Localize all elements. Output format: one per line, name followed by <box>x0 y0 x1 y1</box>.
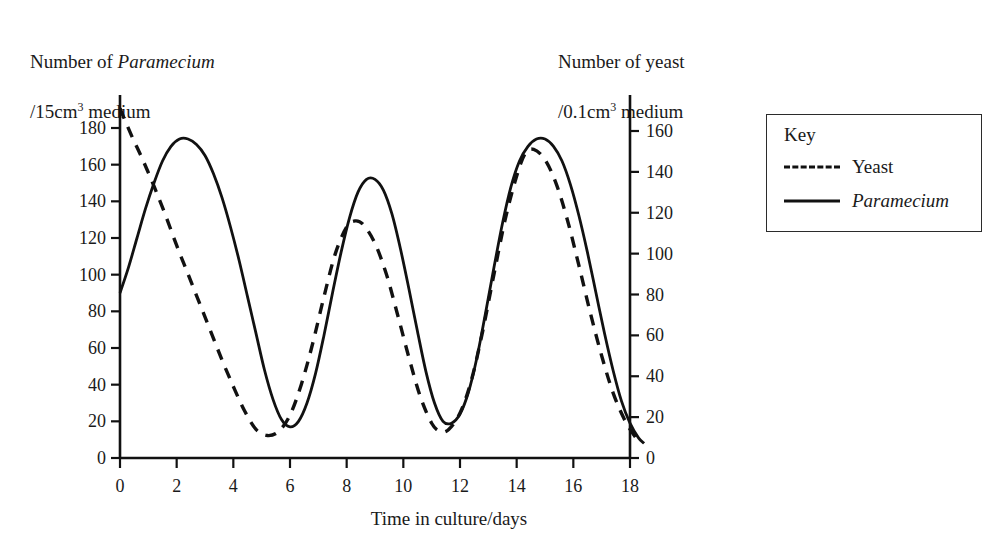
y-axis-right-tick-label: 80 <box>646 284 664 305</box>
x-axis-tick-label: 16 <box>564 476 582 497</box>
dashed-line-icon <box>784 161 840 173</box>
x-axis-tick-label: 10 <box>394 476 412 497</box>
x-axis-tick-label: 14 <box>508 476 526 497</box>
y-axis-right-tick-label: 160 <box>646 121 673 142</box>
series-line-paramecium <box>120 138 644 443</box>
y-axis-left-tick-label: 120 <box>40 228 106 249</box>
x-axis-title-text: Time in culture/days <box>371 508 528 529</box>
legend-entry-paramecium-label: Paramecium <box>852 190 949 212</box>
x-axis-tick-label: 8 <box>342 476 351 497</box>
y-axis-left-tick-label: 80 <box>40 301 106 322</box>
x-axis-tick-label: 18 <box>621 476 639 497</box>
legend-entry-yeast: Yeast <box>784 156 893 178</box>
legend-entry-paramecium: Paramecium <box>784 190 949 212</box>
x-axis-tick-label: 0 <box>116 476 125 497</box>
x-axis-title: Time in culture/days <box>0 508 1008 530</box>
series-line-yeast <box>120 109 641 444</box>
legend-entry-yeast-label: Yeast <box>852 156 893 178</box>
y-axis-right-tick-label: 0 <box>646 448 655 469</box>
chart-figure: Number of Paramecium /15cm3 medium Numbe… <box>0 0 1008 551</box>
x-axis-tick-label: 4 <box>229 476 238 497</box>
x-axis-tick-label: 6 <box>286 476 295 497</box>
y-axis-right-tick-label: 100 <box>646 243 673 264</box>
solid-line-icon <box>784 195 840 207</box>
y-axis-left-tick-label: 0 <box>40 448 106 469</box>
y-axis-left-tick-label: 180 <box>40 118 106 139</box>
y-axis-right-tick-label: 60 <box>646 325 664 346</box>
legend-box: Key Yeast Paramecium <box>766 114 982 232</box>
y-axis-left-tick-label: 140 <box>40 191 106 212</box>
y-axis-left-tick-label: 160 <box>40 154 106 175</box>
y-axis-right-tick-label: 20 <box>646 407 664 428</box>
plot-area <box>0 0 1008 551</box>
y-axis-left-tick-label: 100 <box>40 264 106 285</box>
legend-title: Key <box>784 124 816 146</box>
y-axis-right-tick-label: 120 <box>646 202 673 223</box>
y-axis-left-tick-label: 60 <box>40 338 106 359</box>
y-axis-right-tick-label: 40 <box>646 366 664 387</box>
x-axis-tick-label: 12 <box>451 476 469 497</box>
y-axis-left-tick-label: 40 <box>40 374 106 395</box>
y-axis-left-tick-label: 20 <box>40 411 106 432</box>
x-axis-tick-label: 2 <box>172 476 181 497</box>
y-axis-right-tick-label: 140 <box>646 161 673 182</box>
